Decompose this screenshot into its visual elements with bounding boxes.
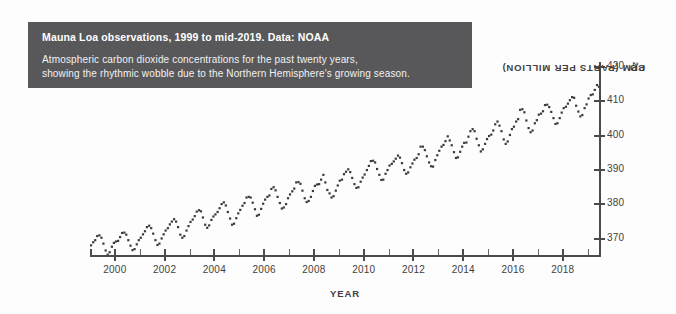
data-point — [308, 200, 310, 202]
data-point — [554, 123, 556, 125]
data-point — [411, 162, 413, 164]
data-point — [330, 196, 332, 198]
data-point — [519, 109, 521, 111]
data-point — [127, 239, 129, 241]
data-point — [221, 203, 223, 205]
data-point — [270, 188, 272, 190]
data-point — [123, 232, 125, 234]
data-point — [341, 179, 343, 181]
data-point — [397, 154, 399, 156]
data-point — [212, 215, 214, 217]
y-tick — [594, 100, 605, 102]
data-point — [281, 207, 283, 209]
data-point — [256, 215, 258, 217]
data-point — [152, 233, 154, 235]
data-point — [181, 237, 183, 239]
x-tick-minor — [488, 249, 489, 255]
data-point — [490, 134, 492, 136]
data-point — [148, 225, 150, 227]
data-point — [125, 234, 127, 236]
data-point — [492, 129, 494, 131]
data-point — [498, 125, 500, 127]
data-point — [544, 104, 546, 106]
data-point — [409, 166, 411, 168]
data-point — [324, 181, 326, 183]
x-tick-label: 2004 — [189, 264, 239, 275]
data-point — [571, 96, 573, 98]
data-point — [229, 217, 231, 219]
x-tick-label: 2000 — [90, 264, 140, 275]
data-point — [536, 119, 538, 121]
data-point — [167, 227, 169, 229]
data-point — [428, 161, 430, 163]
x-tick-minor — [538, 249, 539, 255]
x-tick-major — [263, 249, 265, 261]
data-point — [301, 190, 303, 192]
data-point — [376, 168, 378, 170]
data-point — [289, 193, 291, 195]
data-point — [388, 164, 390, 166]
data-point — [438, 150, 440, 152]
y-tick — [594, 135, 605, 137]
data-point — [227, 211, 229, 213]
data-point — [320, 179, 322, 181]
data-point — [173, 218, 175, 220]
data-point — [312, 190, 314, 192]
data-point — [276, 196, 278, 198]
data-point — [208, 224, 210, 226]
data-point — [187, 225, 189, 227]
data-point — [293, 188, 295, 190]
y-tick-label: 410 — [607, 94, 624, 106]
data-point — [494, 123, 496, 125]
data-point — [465, 141, 467, 143]
data-point — [163, 233, 165, 235]
data-point — [517, 118, 519, 120]
data-point — [318, 183, 320, 185]
data-point — [546, 104, 548, 106]
data-point — [382, 179, 384, 181]
data-point — [171, 221, 173, 223]
data-point — [569, 99, 571, 101]
data-point — [223, 201, 225, 203]
data-point — [472, 128, 474, 130]
data-point — [372, 160, 374, 162]
data-point — [563, 107, 565, 109]
data-point — [225, 204, 227, 206]
data-point — [476, 138, 478, 140]
data-point — [94, 239, 96, 241]
data-point — [335, 190, 337, 192]
x-tick-label: 2016 — [488, 264, 538, 275]
x-tick-major — [562, 249, 564, 261]
data-point — [279, 202, 281, 204]
data-point — [540, 113, 542, 115]
data-point — [478, 144, 480, 146]
data-point — [401, 162, 403, 164]
data-point — [482, 148, 484, 150]
data-point — [231, 224, 233, 226]
data-point — [355, 187, 357, 189]
data-point — [100, 237, 102, 239]
x-tick-major — [412, 249, 414, 261]
x-tick-label: 2006 — [239, 264, 289, 275]
data-point — [368, 165, 370, 167]
data-point — [413, 159, 415, 161]
data-point — [430, 165, 432, 167]
data-point — [219, 207, 221, 209]
data-point — [343, 173, 345, 175]
y-tick — [594, 169, 605, 171]
data-point — [133, 248, 135, 250]
data-point — [283, 206, 285, 208]
data-point — [291, 190, 293, 192]
data-point — [364, 173, 366, 175]
data-point — [391, 163, 393, 165]
data-point — [467, 136, 469, 138]
data-point — [529, 131, 531, 133]
data-point — [274, 189, 276, 191]
data-point — [550, 111, 552, 113]
data-point — [299, 183, 301, 185]
data-point — [559, 117, 561, 119]
data-point — [579, 115, 581, 117]
data-point — [444, 140, 446, 142]
data-point — [328, 192, 330, 194]
data-point — [306, 201, 308, 203]
